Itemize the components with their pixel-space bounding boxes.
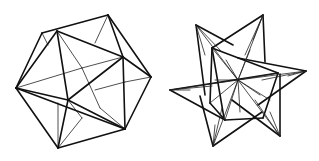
edge — [95, 82, 125, 90]
edge — [57, 31, 68, 100]
edge — [108, 15, 151, 77]
edge — [226, 60, 238, 80]
edge — [16, 68, 82, 88]
edge — [42, 33, 48, 45]
edge — [125, 77, 151, 129]
edge — [238, 73, 278, 80]
edge — [196, 25, 233, 45]
edge — [238, 80, 240, 112]
edge — [95, 15, 108, 43]
edge — [123, 57, 151, 77]
edge — [108, 15, 123, 57]
edge — [170, 90, 225, 120]
edge — [263, 15, 265, 62]
edge — [263, 73, 278, 118]
edge — [68, 57, 123, 100]
edge — [238, 80, 260, 95]
right-star-polyhedron — [170, 15, 306, 146]
edge — [16, 31, 57, 88]
polyhedra-illustration — [0, 0, 319, 161]
edge — [57, 31, 123, 57]
edge — [16, 88, 125, 129]
edge — [58, 129, 125, 148]
edge — [210, 48, 212, 103]
edge — [238, 58, 306, 71]
edge — [225, 80, 238, 120]
edge — [123, 57, 125, 129]
edge — [42, 15, 108, 33]
edge — [82, 68, 100, 108]
edge — [125, 77, 151, 82]
edge — [16, 33, 42, 88]
edge — [238, 50, 250, 80]
left-polyhedron — [16, 15, 151, 148]
